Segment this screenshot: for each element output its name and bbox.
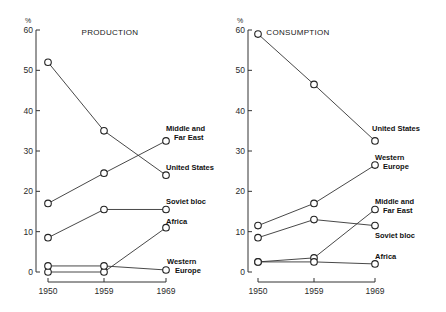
series-united-states: [45, 59, 170, 179]
data-point: [45, 59, 52, 66]
data-point: [311, 216, 318, 223]
data-point: [372, 222, 379, 229]
y-unit-label: %: [237, 17, 243, 24]
chart-title: PRODUCTION: [82, 28, 139, 37]
data-point: [163, 206, 170, 213]
y-tick-label: 20: [236, 186, 246, 196]
y-tick-label: 0: [28, 267, 33, 277]
data-point: [311, 200, 318, 207]
data-point: [372, 162, 379, 169]
data-point: [163, 267, 170, 274]
data-point: [311, 81, 318, 88]
series-united-states: [255, 31, 379, 144]
y-tick-label: 50: [24, 65, 34, 75]
y-tick-label: 20: [24, 186, 34, 196]
data-point: [101, 170, 108, 177]
data-point: [101, 263, 108, 270]
series-label: Africa: [166, 217, 188, 226]
series-label: WesternEurope: [167, 257, 201, 275]
data-point: [101, 128, 108, 135]
x-tick-label: 1969: [157, 286, 176, 296]
data-point: [163, 172, 170, 179]
data-point: [311, 259, 318, 266]
x-tick-label: 1959: [305, 286, 324, 296]
series-line: [258, 165, 375, 226]
x-tick-label: 1969: [366, 286, 385, 296]
y-tick-label: 10: [24, 227, 34, 237]
series-label: United States: [166, 163, 214, 172]
chart-title: CONSUMPTION: [266, 28, 329, 37]
series-line: [258, 34, 375, 141]
data-point: [45, 200, 52, 207]
series-line: [48, 209, 166, 237]
y-tick-label: 50: [236, 65, 246, 75]
y-tick-label: 60: [236, 25, 246, 35]
series-africa: [255, 259, 379, 268]
data-point: [255, 222, 262, 229]
y-tick-label: 0: [240, 267, 245, 277]
production-panel: 0102030405060%195019591969PRODUCTIONMidd…: [24, 17, 214, 296]
y-tick-label: 40: [236, 106, 246, 116]
consumption-panel: 0102030405060%195019591969CONSUMPTIONUni…: [236, 17, 420, 296]
x-tick-label: 1950: [249, 286, 268, 296]
series-middle-and-far-east: [45, 138, 170, 207]
data-point: [255, 259, 262, 266]
data-point: [45, 234, 52, 241]
data-point: [372, 261, 379, 268]
data-point: [372, 138, 379, 145]
data-point: [372, 206, 379, 213]
series-label: WesternEurope: [375, 153, 409, 171]
y-tick-label: 30: [24, 146, 34, 156]
data-point: [255, 234, 262, 241]
data-point: [255, 31, 262, 38]
series-label: United States: [372, 124, 420, 133]
x-tick-label: 1959: [95, 286, 114, 296]
series-label: Middle andFar East: [375, 197, 415, 215]
series-middle-and-far-east: [255, 206, 379, 265]
y-tick-label: 10: [236, 227, 246, 237]
y-tick-label: 60: [24, 25, 34, 35]
y-tick-label: 30: [236, 146, 246, 156]
series-soviet-bloc: [45, 206, 170, 241]
series-line: [48, 62, 166, 175]
series-label: Middle andFar East: [166, 124, 206, 142]
data-point: [101, 206, 108, 213]
data-point: [163, 138, 170, 145]
series-label: Soviet bloc: [375, 231, 415, 240]
data-point: [45, 263, 52, 270]
series-label: Africa: [375, 252, 397, 261]
chart-figure: 0102030405060%195019591969PRODUCTIONMidd…: [0, 0, 446, 312]
series-label: Soviet bloc: [166, 197, 206, 206]
x-tick-label: 1950: [39, 286, 58, 296]
y-tick-label: 40: [24, 106, 34, 116]
y-unit-label: %: [25, 17, 31, 24]
